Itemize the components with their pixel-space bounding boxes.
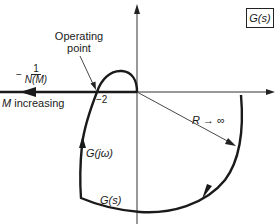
negative-inverse-describing-function-label: − 1 N(M)	[16, 64, 47, 85]
m-increasing-label: M increasing	[2, 97, 64, 109]
operating-point-arrow-icon	[91, 82, 97, 91]
g-jw-label: G(jω)	[86, 147, 113, 159]
operating-point-line2: point	[48, 42, 110, 54]
operating-point-pointer	[80, 56, 94, 86]
nyquist-diagram	[0, 0, 279, 224]
m-increasing-text: increasing	[11, 97, 64, 109]
curve-arrow-up-icon	[79, 136, 86, 148]
fraction-denominator: N(M)	[25, 75, 47, 85]
m-variable: M	[2, 97, 11, 109]
g-s-bottom-label: G(s)	[100, 194, 121, 206]
operating-point-line1: Operating	[48, 30, 110, 42]
radius-arrow-icon	[225, 138, 236, 146]
minus-two-label: −2	[96, 94, 107, 106]
m-increasing-arrow-icon	[20, 87, 36, 97]
radius-label: R → ∞	[192, 114, 225, 126]
transfer-function-box: G(s)	[246, 8, 274, 28]
real-axis-arrow-icon	[266, 89, 275, 95]
imaginary-axis-arrow-icon	[134, 4, 140, 14]
minus-sign: −	[16, 69, 22, 80]
operating-point-label: Operating point	[48, 30, 110, 54]
